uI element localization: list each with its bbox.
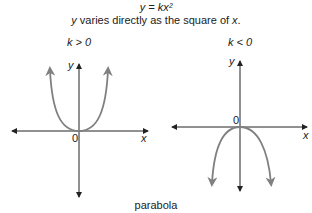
caption: parabola: [0, 199, 312, 211]
y-axis-label-left: y: [68, 59, 74, 71]
origin-label-right: 0: [233, 114, 239, 126]
graphs-canvas: [0, 0, 312, 213]
x-axis-label-right: x: [303, 129, 309, 141]
condition-right: k < 0: [228, 36, 252, 48]
origin-label-left: 0: [72, 132, 78, 144]
y-axis-label-right: y: [229, 55, 235, 67]
x-axis-label-left: x: [141, 132, 147, 144]
graph-positive-k: [12, 64, 148, 197]
condition-left: k > 0: [67, 36, 91, 48]
graph-negative-k: [172, 61, 307, 191]
